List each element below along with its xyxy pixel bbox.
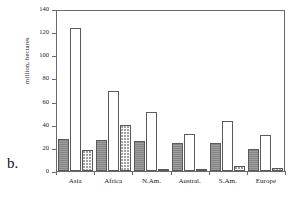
figure-panel: b. million, hectares 020406080100120140 … bbox=[0, 0, 295, 200]
y-axis-tick-label: 120 bbox=[39, 28, 49, 35]
x-axis-category-label: Europe bbox=[247, 177, 285, 193]
x-axis-category-label: S.Am. bbox=[209, 177, 247, 193]
bar-group bbox=[57, 11, 95, 171]
bar bbox=[108, 91, 119, 171]
x-axis-tick-mark bbox=[171, 171, 172, 175]
x-axis-tick-mark bbox=[209, 171, 210, 175]
y-axis-tick-label: 40 bbox=[43, 121, 50, 128]
bar bbox=[82, 150, 93, 171]
x-axis-category-label: Asia bbox=[56, 177, 94, 193]
x-axis-tick-mark bbox=[132, 171, 133, 175]
bar bbox=[70, 28, 81, 171]
bar-group bbox=[246, 11, 284, 171]
bar bbox=[222, 121, 233, 171]
bar-group bbox=[208, 11, 246, 171]
x-axis-category-label: N.Am. bbox=[132, 177, 170, 193]
bar bbox=[96, 140, 107, 171]
y-axis-tick-label: 0 bbox=[46, 167, 49, 174]
x-axis-tick-mark bbox=[285, 171, 286, 175]
bar bbox=[120, 125, 131, 171]
y-axis-tick-label: 60 bbox=[43, 98, 50, 105]
bar bbox=[172, 143, 183, 171]
bar-group bbox=[133, 11, 171, 171]
bar-group bbox=[95, 11, 133, 171]
bar bbox=[58, 139, 69, 171]
y-axis: 020406080100120140 bbox=[0, 10, 56, 172]
bar bbox=[260, 135, 271, 171]
bar-groups bbox=[57, 11, 284, 171]
x-axis-tick-mark bbox=[247, 171, 248, 175]
x-axis-tick-mark bbox=[94, 171, 95, 175]
bar bbox=[210, 143, 221, 171]
x-axis-ticks bbox=[56, 171, 285, 176]
y-axis-tick-label: 80 bbox=[43, 74, 50, 81]
bar bbox=[184, 134, 195, 171]
x-axis-labels: AsiaAfricaN.Am.Austral.S.Am.Europe bbox=[56, 177, 285, 193]
bar bbox=[134, 141, 145, 171]
bar-group bbox=[170, 11, 208, 171]
plot-area bbox=[56, 10, 285, 172]
y-axis-tick-label: 140 bbox=[39, 5, 49, 12]
x-axis-tick-mark bbox=[56, 171, 57, 175]
y-axis-tick-label: 100 bbox=[39, 51, 49, 58]
bar bbox=[146, 112, 157, 171]
y-axis-tick-label: 20 bbox=[43, 144, 50, 151]
bar bbox=[248, 149, 259, 171]
x-axis-category-label: Austral. bbox=[171, 177, 209, 193]
x-axis-category-label: Africa bbox=[94, 177, 132, 193]
